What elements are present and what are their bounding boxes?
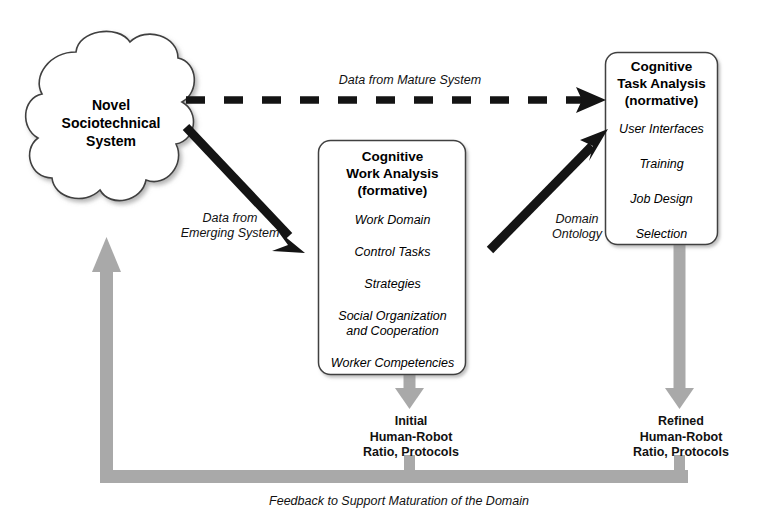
cwa-item-control-tasks: Control Tasks bbox=[320, 245, 465, 260]
cta-item-job-design: Job Design bbox=[606, 192, 717, 207]
cta-box-title: Cognitive Task Analysis (normative) bbox=[606, 58, 717, 109]
cloud-label-line1: Novel bbox=[40, 96, 182, 114]
cta-item-training: Training bbox=[606, 157, 717, 172]
edge-label-ontology-line1: Domain bbox=[531, 212, 623, 227]
cwa-item-social-line1: Social Organization bbox=[320, 309, 465, 324]
edge-label-ontology-line2: Ontology bbox=[531, 227, 623, 242]
cta-title-line1: Cognitive bbox=[606, 58, 717, 75]
cwa-title-line1: Cognitive bbox=[320, 148, 465, 165]
cwa-title-line3: (formative) bbox=[320, 182, 465, 199]
edge-label-data-from-mature-system: Data from Mature System bbox=[300, 73, 520, 88]
diagram-canvas: Novel Sociotechnical System Cognitive Wo… bbox=[0, 0, 778, 526]
cwa-item-worker-competencies: Worker Competencies bbox=[320, 356, 465, 371]
cloud-label: Novel Sociotechnical System bbox=[40, 96, 182, 150]
output-label-refined: Refined Human-Robot Ratio, Protocols bbox=[605, 414, 757, 461]
cwa-item-social-line2: and Cooperation bbox=[320, 324, 465, 339]
output-refined-line1: Refined bbox=[605, 414, 757, 430]
edge-label-feedback: Feedback to Support Maturation of the Do… bbox=[249, 494, 549, 509]
cloud-label-line2: Sociotechnical bbox=[40, 114, 182, 132]
cta-title-line3: (normative) bbox=[606, 92, 717, 109]
cta-item-user-interfaces: User Interfaces bbox=[606, 122, 717, 137]
edge-label-data-from-emerging-system: Data from Emerging System bbox=[168, 211, 292, 241]
data-from-mature-system-arrow bbox=[186, 87, 606, 113]
edge-label-emerging-line2: Emerging System bbox=[168, 226, 292, 241]
cta-title-line2: Task Analysis bbox=[606, 75, 717, 92]
cwa-box-content: Cognitive Work Analysis (formative) Work… bbox=[320, 148, 465, 371]
cwa-to-initial-arrow bbox=[395, 374, 424, 409]
output-initial-line3: Ratio, Protocols bbox=[335, 445, 487, 461]
edge-label-domain-ontology: Domain Ontology bbox=[531, 212, 623, 242]
cta-to-refined-arrow bbox=[665, 244, 694, 409]
cwa-box-title: Cognitive Work Analysis (formative) bbox=[320, 148, 465, 199]
output-refined-line3: Ratio, Protocols bbox=[605, 445, 757, 461]
output-initial-line2: Human-Robot bbox=[335, 430, 487, 446]
output-label-initial: Initial Human-Robot Ratio, Protocols bbox=[335, 414, 487, 461]
output-refined-line2: Human-Robot bbox=[605, 430, 757, 446]
cwa-item-strategies: Strategies bbox=[320, 277, 465, 292]
cwa-item-social-organization: Social Organization and Cooperation bbox=[320, 309, 465, 339]
cwa-title-line2: Work Analysis bbox=[320, 165, 465, 182]
cloud-label-line3: System bbox=[40, 132, 182, 150]
edge-label-emerging-line1: Data from bbox=[168, 211, 292, 226]
output-initial-line1: Initial bbox=[335, 414, 487, 430]
cwa-item-work-domain: Work Domain bbox=[320, 213, 465, 228]
